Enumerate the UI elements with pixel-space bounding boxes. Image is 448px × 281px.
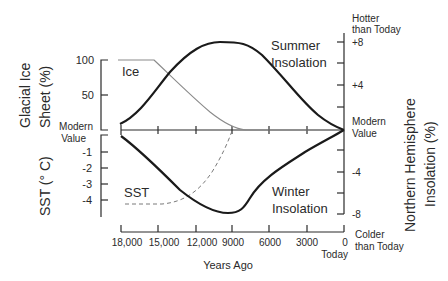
- sst-tick-1: -1: [82, 146, 92, 158]
- ice-axis-title: Glacial Ice Sheet (%): [17, 62, 53, 128]
- left-baseline-label-line2: Value: [61, 133, 86, 144]
- sst-tick-2: -2: [82, 162, 92, 174]
- ice-axis-title-line2: Sheet (%): [37, 66, 53, 128]
- years-axis-title: Years Ago: [203, 259, 253, 271]
- winter-label-line2: Insolation: [272, 201, 328, 216]
- summer-label-line1: Summer: [271, 38, 321, 53]
- sst-axis-title: SST (° C): [37, 156, 53, 216]
- insolation-tick-minus4: -4: [352, 167, 361, 178]
- colder-note-line2: than Today: [355, 241, 404, 252]
- ice-series-label: Ice: [122, 64, 139, 79]
- right-baseline-label-line1: Modern: [352, 116, 386, 127]
- insolation-axis-title-line2: Insolation (%): [422, 121, 438, 207]
- insolation-tick-plus4: +4: [352, 80, 364, 91]
- ice-tick-100: 100: [76, 54, 94, 66]
- insolation-tick-minus8: -8: [352, 209, 361, 220]
- year-tick-3000: 3000: [296, 237, 319, 248]
- summer-label-line2: Insolation: [271, 55, 327, 70]
- year-tick-15000: 15,000: [149, 237, 180, 248]
- colder-note-line1: Colder: [355, 229, 385, 240]
- sst-tick-4: -4: [82, 194, 92, 206]
- insolation-tick-plus8: +8: [352, 37, 364, 48]
- sst-tick-3: -3: [82, 178, 92, 190]
- ice-tick-50: 50: [82, 89, 94, 101]
- year-tick-today: Today: [321, 249, 348, 260]
- insolation-axis-title-line1: Northern Hemisphere: [402, 98, 418, 232]
- sst-axis: [101, 135, 108, 217]
- year-tick-6000: 6000: [259, 237, 282, 248]
- hotter-note-line2: than Today: [352, 24, 401, 35]
- ice-axis-title-line1: Glacial Ice: [17, 62, 33, 128]
- year-tick-9000: 9000: [222, 237, 245, 248]
- ice-axis: [101, 60, 108, 130]
- year-tick-0: 0: [342, 237, 348, 248]
- paleoclimate-chart: Glacial Ice Sheet (%) 100 50 Modern Valu…: [0, 0, 448, 281]
- right-baseline-label-line2: Value: [352, 128, 377, 139]
- left-baseline-label-line1: Modern: [59, 121, 93, 132]
- insolation-axis: [337, 33, 344, 214]
- years-axis: [121, 225, 344, 232]
- winter-label-line1: Winter: [272, 184, 310, 199]
- hotter-note-line1: Hotter: [352, 13, 380, 24]
- year-tick-18000: 18,000: [112, 237, 143, 248]
- sst-series-label: SST: [124, 185, 149, 200]
- year-tick-12000: 12,000: [187, 237, 218, 248]
